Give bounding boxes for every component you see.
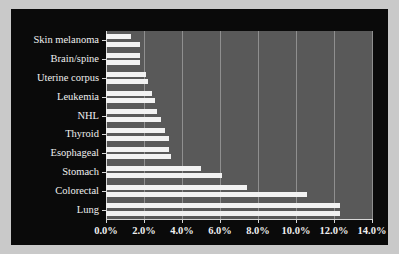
- bar: [106, 136, 169, 141]
- y-axis-label: Uterine corpus: [37, 72, 99, 83]
- y-axis-label: Esophageal: [51, 147, 99, 158]
- chart-canvas: Skin melanomaBrain/spineUterine corpusLe…: [11, 9, 388, 245]
- bar: [106, 147, 169, 152]
- y-axis-label: Colorectal: [55, 185, 99, 196]
- x-axis-tick: [182, 219, 183, 223]
- x-axis-label: 0.0%: [94, 225, 118, 237]
- bar: [106, 154, 171, 159]
- bar: [106, 203, 340, 208]
- x-axis-line: [106, 219, 373, 220]
- x-axis-label: 8.0%: [246, 225, 270, 237]
- y-axis-label: Leukemia: [57, 91, 99, 102]
- y-axis-label: Lung: [77, 204, 99, 215]
- bar: [106, 185, 247, 190]
- bar: [106, 42, 140, 47]
- y-axis-label: Skin melanoma: [33, 34, 99, 45]
- bar: [106, 173, 222, 178]
- bar: [106, 192, 307, 197]
- x-axis-tick: [106, 219, 107, 223]
- x-axis-label: 10.0%: [282, 225, 311, 237]
- x-axis-tick: [144, 219, 145, 223]
- x-axis-tick: [220, 219, 221, 223]
- chart-figure: Skin melanomaBrain/spineUterine corpusLe…: [0, 0, 399, 254]
- x-axis-label: 6.0%: [208, 225, 232, 237]
- bar: [106, 79, 148, 84]
- bar: [106, 211, 340, 216]
- bar: [106, 34, 131, 39]
- x-axis-label: 14.0%: [358, 225, 387, 237]
- x-axis-label: 4.0%: [170, 225, 194, 237]
- gridline: [372, 31, 373, 219]
- y-axis-labels: Skin melanomaBrain/spineUterine corpusLe…: [11, 31, 99, 219]
- bar: [106, 53, 140, 58]
- x-axis-tick: [296, 219, 297, 223]
- bar: [106, 98, 155, 103]
- bars-layer: [106, 31, 372, 219]
- bar: [106, 109, 157, 114]
- bar: [106, 72, 146, 77]
- bar: [106, 60, 140, 65]
- x-axis-tick: [372, 219, 373, 223]
- y-axis-label: Thyroid: [65, 128, 99, 139]
- x-axis-tick: [258, 219, 259, 223]
- x-axis-tick: [334, 219, 335, 223]
- bar: [106, 117, 161, 122]
- bar: [106, 128, 165, 133]
- bar: [106, 91, 152, 96]
- y-axis-label: Stomach: [62, 166, 99, 177]
- x-axis-label: 12.0%: [320, 225, 349, 237]
- x-axis-label: 2.0%: [132, 225, 156, 237]
- y-axis-label: NHL: [77, 110, 99, 121]
- y-axis-label: Brain/spine: [51, 53, 99, 64]
- bar: [106, 166, 201, 171]
